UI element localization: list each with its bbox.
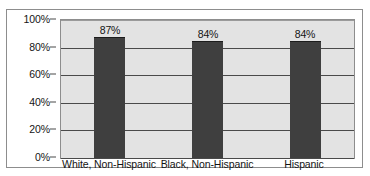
plot-area: 87%84%84% <box>60 19 355 159</box>
bar-value-label: 84% <box>198 28 219 40</box>
y-tick-label: 20% <box>29 123 50 135</box>
y-tick-mark <box>50 129 56 130</box>
y-tick-mark <box>50 74 56 75</box>
y-tick-mark <box>50 101 56 102</box>
gridline <box>61 20 354 21</box>
y-tick-mark <box>50 157 56 158</box>
x-axis: White, Non-HispanicBlack, Non-HispanicHi… <box>7 160 362 169</box>
bar <box>94 37 125 158</box>
x-tick-label: Black, Non-Hispanic <box>161 158 254 170</box>
bar-value-label: 84% <box>295 28 316 40</box>
y-axis: 100%80%60%40%20%0% <box>7 10 60 168</box>
bar-value-label: 87% <box>100 24 121 36</box>
y-tick-mark <box>50 46 56 47</box>
y-tick-mark <box>50 19 56 20</box>
y-tick-label: 80% <box>29 41 50 53</box>
bar <box>290 41 321 158</box>
y-tick-label: 100% <box>24 13 50 25</box>
bar <box>192 41 223 158</box>
x-tick-label: Hispanic <box>284 158 323 170</box>
y-tick-label: 60% <box>29 68 50 80</box>
bar-chart-figure: 100%80%60%40%20%0% 87%84%84% White, Non-… <box>6 9 363 168</box>
y-tick-label: 40% <box>29 96 50 108</box>
x-tick-label: White, Non-Hispanic <box>62 158 156 170</box>
